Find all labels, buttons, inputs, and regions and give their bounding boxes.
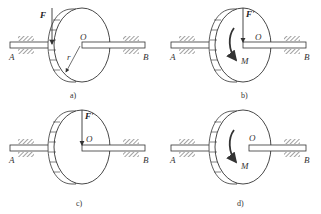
caption-d: d) [237, 199, 244, 208]
center-label-b: O [255, 32, 262, 42]
panel-a: F O r A B a) [8, 8, 149, 100]
force-label-c: F' [84, 111, 94, 121]
moment-label-b: M [240, 56, 249, 66]
caption-a: a) [70, 91, 77, 100]
panel-c: F' O A B c) [8, 110, 149, 208]
bearing-label-b: B [143, 155, 149, 165]
bearing-label-b: B [304, 52, 310, 62]
force-label-b: F' [245, 9, 255, 19]
radius-label-a: r [67, 52, 71, 62]
caption-b: b) [241, 91, 248, 100]
bearing-label-b: B [143, 52, 149, 62]
panel-b: F' O M A B b) [169, 8, 310, 100]
bearing-label-b: B [304, 155, 310, 165]
bearing-b-bottom [123, 49, 139, 54]
shaft-right-a [82, 42, 145, 48]
caption-c: c) [76, 199, 83, 208]
center-label-a: O [80, 32, 87, 42]
bearing-label-a: A [8, 52, 15, 62]
center-label-c: O [86, 134, 93, 144]
center-label-d: O [249, 133, 256, 143]
bearing-label-a: A [169, 155, 176, 165]
bearing-label-a: A [8, 155, 15, 165]
bearing-b-top [123, 36, 139, 41]
bearing-a-bottom [18, 49, 34, 54]
bearing-a-top [18, 36, 34, 41]
force-label-a: F [39, 10, 46, 20]
panel-d: O M A B d) [169, 110, 310, 208]
bearing-label-a: A [169, 52, 176, 62]
moment-label-d: M [240, 161, 249, 171]
